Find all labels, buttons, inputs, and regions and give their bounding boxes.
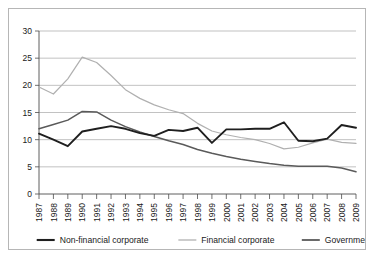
y-tick-label: 0 bbox=[27, 189, 32, 199]
y-tick-label: 20 bbox=[23, 80, 33, 90]
y-tick-label: 30 bbox=[23, 26, 33, 36]
legend-label-financial-corporate: Financial corporate bbox=[201, 235, 274, 245]
x-tick-label: 1992 bbox=[106, 203, 116, 222]
x-tick-label: 2008 bbox=[337, 203, 347, 222]
y-tick-label: 25 bbox=[23, 53, 33, 63]
x-tick-label: 1996 bbox=[164, 203, 174, 222]
x-tick-label: 1987 bbox=[34, 203, 44, 222]
x-tick-label: 2002 bbox=[250, 203, 260, 222]
x-tick-label: 2003 bbox=[265, 203, 275, 222]
x-tick-label: 1997 bbox=[178, 203, 188, 222]
x-tick-label: 2004 bbox=[279, 203, 289, 222]
series-group bbox=[39, 57, 356, 172]
x-tick-label: 1989 bbox=[63, 203, 73, 222]
x-tick-label: 1998 bbox=[193, 203, 203, 222]
x-tick-label: 1990 bbox=[77, 203, 87, 222]
x-tick-label: 1993 bbox=[121, 203, 131, 222]
chart-figure: 0510152025301987198819891990199119921993… bbox=[0, 0, 378, 260]
x-tick-label: 2006 bbox=[308, 203, 318, 222]
x-axis-ticks: 1987198819891990199119921993199419951996… bbox=[34, 194, 361, 222]
x-tick-label: 2001 bbox=[236, 203, 246, 222]
x-tick-label: 2007 bbox=[322, 203, 332, 222]
x-tick-label: 1995 bbox=[149, 203, 159, 222]
x-tick-label: 1988 bbox=[49, 203, 59, 222]
x-tick-label: 1994 bbox=[135, 203, 145, 222]
line-chart: 0510152025301987198819891990199119921993… bbox=[9, 9, 365, 249]
y-gridlines: 051015202530 bbox=[23, 26, 356, 199]
legend: Non-financial corporateFinancial corpora… bbox=[37, 235, 365, 245]
legend-label-government: Government bbox=[325, 235, 365, 245]
y-tick-label: 15 bbox=[23, 108, 33, 118]
y-tick-label: 10 bbox=[23, 135, 33, 145]
x-tick-label: 2005 bbox=[294, 203, 304, 222]
legend-label-non-financial-corporate: Non-financial corporate bbox=[60, 235, 149, 245]
x-tick-label: 2009 bbox=[351, 203, 361, 222]
y-tick-label: 5 bbox=[27, 162, 32, 172]
x-tick-label: 1991 bbox=[92, 203, 102, 222]
series-line-non-financial-corporate bbox=[39, 122, 356, 146]
x-tick-label: 1999 bbox=[207, 203, 217, 222]
series-line-financial-corporate bbox=[39, 57, 356, 149]
chart-frame: 0510152025301987198819891990199119921993… bbox=[8, 8, 366, 250]
x-tick-label: 2000 bbox=[222, 203, 232, 222]
